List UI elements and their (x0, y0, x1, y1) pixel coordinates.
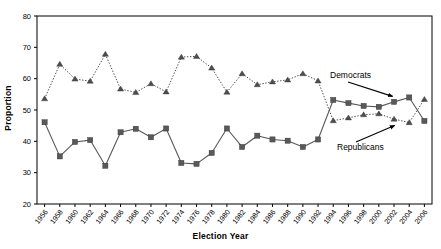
data-point-marker (330, 118, 336, 123)
x-tick-label: 1962 (78, 208, 95, 226)
y-axis-ticks: 20304050607080 (23, 12, 37, 209)
data-point-marker (179, 160, 184, 165)
data-point-marker (421, 96, 427, 101)
x-tick-label: 1970 (139, 208, 156, 226)
data-point-marker (102, 51, 108, 56)
data-point-marker (209, 150, 214, 155)
republicans-annotation-arrow (356, 126, 395, 142)
y-tick-label: 80 (23, 12, 31, 21)
x-tick-label: 1976 (185, 208, 202, 226)
y-tick-label: 30 (23, 168, 31, 177)
data-point-marker (270, 137, 275, 142)
data-point-marker (391, 116, 397, 121)
data-point-marker (117, 86, 123, 91)
data-point-marker (239, 71, 245, 76)
x-tick-label: 1974 (169, 208, 186, 226)
data-point-marker (88, 137, 93, 142)
chart-figure: 20304050607080 1956195819601962196419661… (0, 0, 441, 249)
x-tick-label: 2006 (413, 208, 430, 226)
data-point-marker (407, 95, 412, 100)
x-tick-label: 1994 (321, 208, 338, 226)
series-annotation-label-republicans: Republicans (337, 142, 384, 152)
data-point-marker (103, 163, 108, 168)
data-point-marker (315, 137, 320, 142)
series-annotation-label-democrats: Democrats (330, 70, 371, 80)
y-axis-title: Proportion (3, 78, 13, 138)
x-tick-label: 1980 (215, 208, 232, 226)
data-point-marker (361, 112, 367, 117)
line-chart-canvas: 20304050607080 1956195819601962196419661… (0, 0, 441, 249)
x-tick-label: 1968 (124, 208, 141, 226)
data-point-marker (178, 54, 184, 59)
x-tick-label: 1972 (154, 208, 171, 226)
data-point-marker (285, 138, 290, 143)
data-point-marker (148, 81, 154, 86)
data-point-marker (300, 144, 305, 149)
data-point-marker (361, 103, 366, 108)
data-point-marker (391, 99, 396, 104)
x-tick-label: 1966 (109, 208, 126, 226)
x-tick-label: 1956 (33, 208, 50, 226)
data-point-marker (72, 76, 78, 81)
data-point-marker (87, 78, 93, 83)
data-point-marker (346, 101, 351, 106)
x-tick-label: 1958 (48, 208, 65, 226)
data-point-marker (194, 161, 199, 166)
x-axis-title: Election Year (0, 231, 441, 241)
y-tick-label: 50 (23, 106, 31, 115)
data-point-marker (255, 133, 260, 138)
x-tick-label: 2002 (382, 208, 399, 226)
x-tick-label: 1982 (230, 208, 247, 226)
data-point-marker (148, 135, 153, 140)
x-tick-label: 2004 (397, 208, 414, 226)
data-point-marker (422, 118, 427, 123)
data-point-marker (72, 139, 77, 144)
data-point-marker (224, 126, 229, 131)
y-tick-label: 70 (23, 43, 31, 52)
data-point-marker (300, 71, 306, 76)
x-tick-label: 1986 (261, 208, 278, 226)
x-tick-label: 1988 (276, 208, 293, 226)
x-tick-label: 2000 (367, 208, 384, 226)
data-point-marker (118, 130, 123, 135)
data-point-marker (42, 120, 47, 125)
plot-frame (37, 16, 432, 204)
series-line-democrats (45, 97, 425, 165)
data-point-marker (239, 144, 244, 149)
x-tick-label: 1984 (245, 208, 262, 226)
y-tick-label: 60 (23, 74, 31, 83)
data-point-marker (376, 104, 381, 109)
x-tick-label: 1964 (93, 208, 110, 226)
data-point-marker (193, 54, 199, 59)
data-point-marker (57, 154, 62, 159)
x-tick-label: 1992 (306, 208, 323, 226)
data-point-marker (209, 65, 215, 70)
annotation-layer: DemocratsRepublicans (330, 70, 395, 152)
data-point-marker (57, 61, 63, 66)
y-tick-label: 40 (23, 137, 31, 146)
data-point-marker (345, 115, 351, 120)
x-tick-label: 1960 (63, 208, 80, 226)
data-point-marker (163, 89, 169, 94)
democrats-annotation-arrow (348, 82, 393, 96)
x-tick-label: 1990 (291, 208, 308, 226)
data-point-marker (376, 111, 382, 116)
x-tick-label: 1978 (200, 208, 217, 226)
x-tick-label: 1998 (352, 208, 369, 226)
x-tick-label: 1996 (337, 208, 354, 226)
y-tick-label: 20 (23, 200, 31, 209)
data-point-marker (331, 97, 336, 102)
data-point-marker (315, 78, 321, 83)
data-point-marker (41, 96, 47, 101)
data-point-marker (164, 126, 169, 131)
data-point-marker (133, 126, 138, 131)
x-axis-ticks: 1956195819601962196419661968197019721974… (33, 204, 430, 226)
